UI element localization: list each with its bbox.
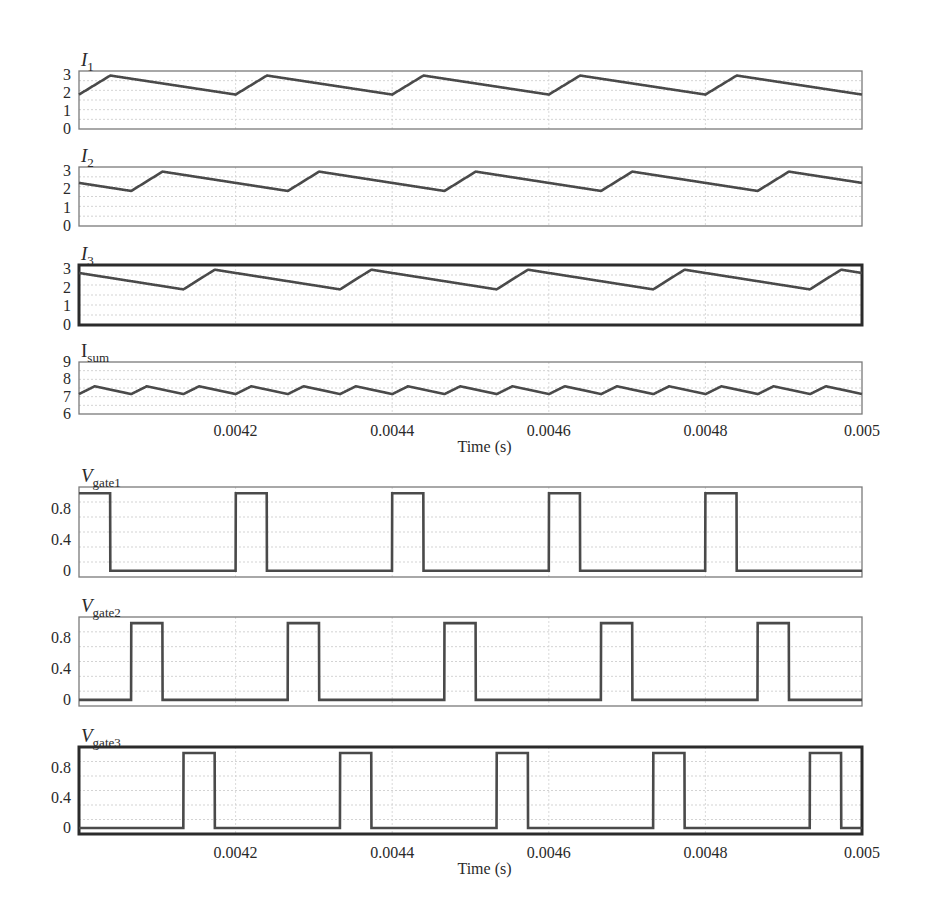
chart-panels: 0123I10123I20123I36789Isum0.00420.00440.…	[51, 49, 880, 878]
x-tick-label: 0.0042	[214, 844, 258, 861]
y-tick-label: 0	[63, 691, 71, 708]
x-tick-label: 0.005	[844, 422, 880, 439]
y-tick-label: 8	[63, 370, 71, 387]
panel-label: Vgate2	[81, 595, 121, 620]
x-tick-label: 0.0046	[527, 422, 571, 439]
panel-vgate3: 00.40.8Vgate30.00420.00440.00460.00480.0…	[51, 725, 880, 878]
y-tick-label: 2	[63, 84, 71, 101]
y-tick-label: 1	[63, 297, 71, 314]
y-tick-label: 0.8	[51, 759, 71, 776]
y-tick-label: 3	[63, 162, 71, 179]
y-tick-label: 0	[63, 316, 71, 333]
panel-i1: 0123I1	[63, 49, 862, 137]
y-tick-label: 7	[63, 388, 71, 405]
series-line-isum	[79, 386, 862, 394]
panel-label: Isum	[81, 340, 109, 365]
panel-i3: 0123I3	[63, 243, 862, 333]
x-tick-label: 0.0048	[683, 422, 727, 439]
y-tick-label: 2	[63, 180, 71, 197]
y-tick-label: 0.4	[51, 531, 71, 548]
y-tick-label: 1	[63, 102, 71, 119]
y-tick-label: 0	[63, 120, 71, 137]
series-line-i2	[79, 172, 862, 191]
y-tick-label: 0.8	[51, 500, 71, 517]
y-tick-label: 9	[63, 353, 71, 370]
panel-isum: 6789Isum0.00420.00440.00460.00480.005Tim…	[63, 340, 880, 456]
x-tick-label: 0.0048	[683, 844, 727, 861]
y-tick-label: 3	[63, 260, 71, 277]
y-tick-label: 2	[63, 279, 71, 296]
panel-vgate1: 00.40.8Vgate1	[51, 465, 862, 579]
y-tick-label: 0	[63, 819, 71, 836]
x-tick-label: 0.005	[844, 844, 880, 861]
series-line-i3	[79, 270, 862, 290]
y-tick-label: 0.4	[51, 660, 71, 677]
y-tick-label: 0.8	[51, 629, 71, 646]
y-tick-label: 0	[63, 217, 71, 234]
x-tick-label: 0.0044	[370, 422, 414, 439]
x-tick-label: 0.0042	[214, 422, 258, 439]
panel-i2: 0123I2	[63, 145, 862, 234]
y-tick-label: 0.4	[51, 789, 71, 806]
x-axis-title: Time (s)	[457, 860, 511, 878]
x-tick-label: 0.0044	[370, 844, 414, 861]
x-tick-label: 0.0046	[527, 844, 571, 861]
y-tick-label: 6	[63, 405, 71, 422]
y-tick-label: 3	[63, 66, 71, 83]
panel-label: I2	[80, 145, 94, 170]
y-tick-label: 1	[63, 199, 71, 216]
x-axis-title: Time (s)	[457, 438, 511, 456]
panel-vgate2: 00.40.8Vgate2	[51, 595, 862, 708]
panel-label: I1	[80, 49, 94, 74]
figure-canvas: 0123I10123I20123I36789Isum0.00420.00440.…	[0, 0, 926, 905]
panel-label: Vgate1	[81, 465, 121, 490]
y-tick-label: 0	[63, 562, 71, 579]
series-line-i1	[79, 76, 862, 95]
